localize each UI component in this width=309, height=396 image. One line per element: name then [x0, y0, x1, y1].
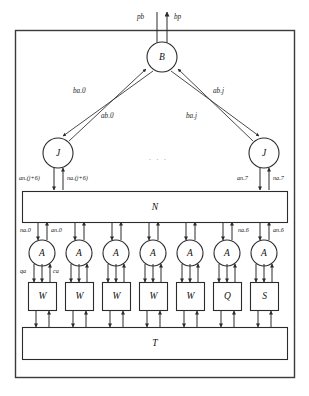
port-label-an-j6: an.(j+6): [19, 174, 40, 182]
node-agent-a5-label: A: [223, 248, 230, 258]
ports-n-to-a: [38, 222, 269, 240]
edge-label-ab-j: ab.j: [213, 87, 224, 95]
edge-label-ba-j: ba.j: [186, 112, 197, 120]
node-agent-a3-label: A: [149, 248, 156, 258]
box-worker-w0-label: W: [39, 291, 48, 301]
edge-label-ab-0: ab.0: [101, 112, 114, 120]
box-worker-w2-label: W: [113, 291, 122, 301]
box-worker-q5-label: Q: [224, 291, 231, 301]
box-network-n-label: N: [151, 202, 159, 212]
io-label-bp: bp: [174, 13, 182, 21]
edge-label-ba-0: ba.0: [73, 87, 86, 95]
edge-ab-j-down: [171, 71, 259, 136]
node-agent-a1-label: A: [75, 248, 82, 258]
port-label-na-j6: na.(j+6): [67, 174, 88, 182]
ports-w-to-t: [36, 311, 271, 327]
node-agent-a2-label: A: [112, 248, 119, 258]
node-broker-b-label: B: [159, 52, 165, 62]
worker-row: W W W W W Q S: [29, 283, 279, 311]
box-worker-w4-label: W: [187, 291, 196, 301]
box-worker-w3-label: W: [150, 291, 159, 301]
box-transport-t-label: T: [152, 338, 158, 348]
agent-row: A A A A A A A: [29, 240, 277, 266]
node-agent-a6-label: A: [260, 248, 267, 258]
port-label-na-7: na.7: [273, 174, 285, 181]
diagram-root: pb bp B ba.0 ab.0 ab.j ba.j J J . . . an…: [0, 0, 309, 396]
box-worker-w1-label: W: [76, 291, 85, 301]
io-label-pb: pb: [136, 13, 145, 21]
diagram-canvas: pb bp B ba.0 ab.0 ab.j ba.j J J . . . an…: [0, 0, 309, 396]
port-label-an-7: an.7: [237, 174, 249, 181]
port-label-qa: qa: [20, 267, 26, 274]
ellipsis-separator: . . .: [149, 152, 168, 162]
port-label-an-6: an.6: [273, 226, 285, 233]
node-agent-a0-label: A: [38, 248, 45, 258]
box-worker-s6-label: S: [262, 291, 267, 301]
edge-ba-0-down: [63, 71, 153, 136]
port-label-na-0: na.0: [20, 226, 32, 233]
edge-ba-j-up: [178, 69, 253, 141]
port-label-an-0: an.0: [51, 226, 63, 233]
ports-a-to-w: [34, 264, 272, 282]
port-label-ca: ca: [53, 267, 59, 274]
edge-ab-0-up: [69, 69, 146, 141]
port-label-na-6: na.6: [238, 226, 250, 233]
node-agent-a4-label: A: [186, 248, 193, 258]
